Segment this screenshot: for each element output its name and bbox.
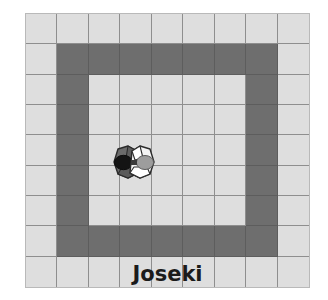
board-cell (26, 44, 57, 74)
board-cell (57, 14, 88, 44)
board-cell (215, 105, 246, 135)
board-cell (183, 14, 214, 44)
board-cell (246, 257, 277, 287)
board-cell (152, 226, 183, 256)
board-cell (246, 135, 277, 165)
board-cell (152, 75, 183, 105)
board-cell (57, 166, 88, 196)
board-cell (183, 75, 214, 105)
board-cell (120, 44, 151, 74)
board-cell (57, 105, 88, 135)
board-cell (120, 14, 151, 44)
figures-contact-point (131, 160, 137, 165)
board-cell (26, 196, 57, 226)
board-cell (57, 196, 88, 226)
board-cell (278, 75, 309, 105)
go-board: Joseki (25, 13, 310, 288)
board-cell (120, 257, 151, 287)
board-cell (215, 14, 246, 44)
board-cell (152, 44, 183, 74)
stone-figures-pair (108, 140, 160, 184)
board-cell (215, 166, 246, 196)
board-cell (278, 166, 309, 196)
board-cell (57, 44, 88, 74)
board-cell (120, 226, 151, 256)
board-cell (183, 257, 214, 287)
board-cell (246, 44, 277, 74)
board-cell (278, 14, 309, 44)
board-cell (89, 44, 120, 74)
board-cell (152, 196, 183, 226)
board-cell (246, 166, 277, 196)
board-cell (120, 105, 151, 135)
board-cell (215, 196, 246, 226)
board-cell (183, 166, 214, 196)
board-cell (278, 257, 309, 287)
board-cell (89, 196, 120, 226)
board-cell (278, 226, 309, 256)
board-cell (89, 257, 120, 287)
board-cell (215, 226, 246, 256)
board-cell (89, 75, 120, 105)
board-cell (152, 14, 183, 44)
board-cell (26, 135, 57, 165)
board-cell (183, 44, 214, 74)
board-cell (183, 196, 214, 226)
board-cell (246, 75, 277, 105)
board-cell (183, 226, 214, 256)
board-cell (26, 226, 57, 256)
illustration-canvas: Joseki (0, 0, 328, 300)
board-cell (57, 135, 88, 165)
board-cell (152, 257, 183, 287)
board-cell (26, 75, 57, 105)
board-cell (278, 135, 309, 165)
board-cell (120, 75, 151, 105)
board-cell (89, 105, 120, 135)
board-cell (278, 196, 309, 226)
board-cell (57, 75, 88, 105)
board-cell (57, 257, 88, 287)
board-cell (26, 105, 57, 135)
board-grid (26, 14, 309, 287)
board-cell (246, 226, 277, 256)
board-cell (278, 105, 309, 135)
board-cell (57, 226, 88, 256)
board-cell (152, 105, 183, 135)
board-cell (215, 44, 246, 74)
board-cell (215, 257, 246, 287)
board-cell (215, 75, 246, 105)
board-cell (246, 105, 277, 135)
board-cell (89, 226, 120, 256)
board-cell (120, 196, 151, 226)
board-cell (183, 135, 214, 165)
board-cell (26, 14, 57, 44)
board-cell (26, 166, 57, 196)
board-cell (26, 257, 57, 287)
board-cell (246, 14, 277, 44)
board-cell (246, 196, 277, 226)
board-cell (183, 105, 214, 135)
board-cell (89, 14, 120, 44)
board-cell (215, 135, 246, 165)
board-cell (278, 44, 309, 74)
